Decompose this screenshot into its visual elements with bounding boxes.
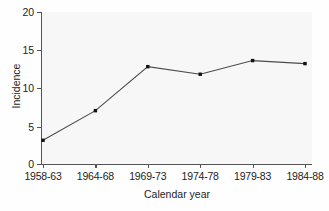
incidence-markers bbox=[41, 59, 306, 142]
data-point-1969-73 bbox=[146, 65, 149, 68]
data-point-1964-68 bbox=[94, 109, 97, 112]
data-point-1979-83 bbox=[251, 59, 254, 62]
incidence-line bbox=[43, 61, 305, 141]
data-series-layer bbox=[0, 0, 329, 211]
incidence-line-chart: 20 15 10 5 0 1958-63 1964-68 1969-73 197… bbox=[0, 0, 329, 211]
data-point-1974-78 bbox=[199, 73, 202, 76]
data-point-1958-63 bbox=[41, 139, 44, 142]
data-point-1984-88 bbox=[303, 62, 306, 65]
